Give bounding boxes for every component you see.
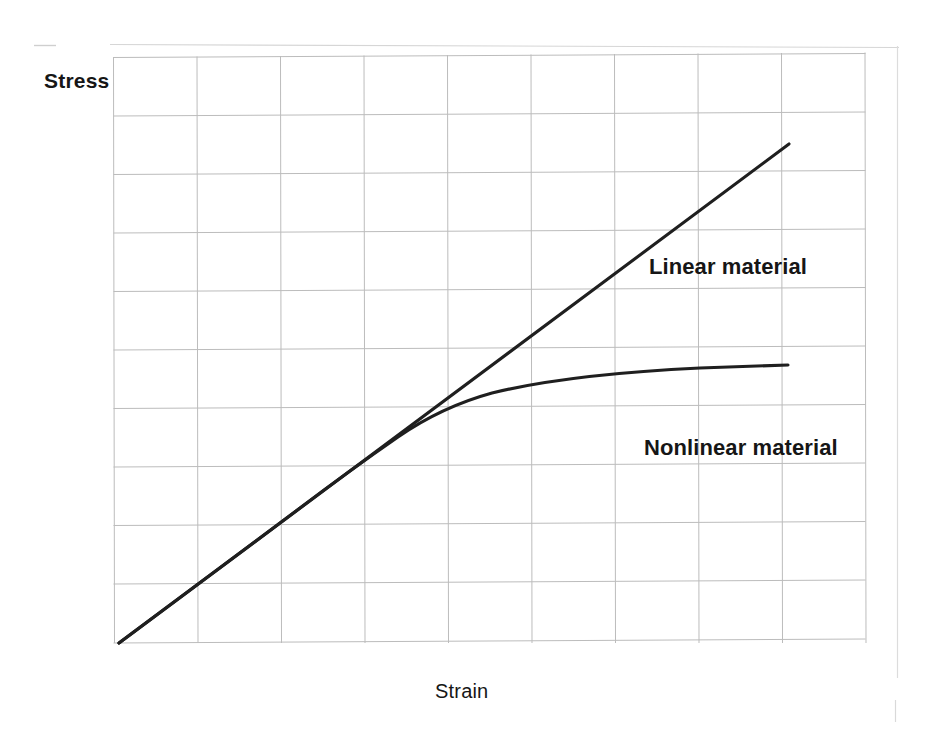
- annotation-linear-material: Linear material: [649, 256, 807, 278]
- data-curves: [119, 144, 789, 643]
- grid-line-h-6: [114, 405, 866, 409]
- grid-line-v-5: [531, 55, 532, 644]
- grid-line-h-0: [114, 54, 866, 58]
- grid-line-h-3: [114, 229, 866, 233]
- plot-canvas: [0, 0, 950, 740]
- grid-line-v-4: [448, 55, 449, 643]
- grid-line-h-4: [114, 288, 866, 292]
- x-axis-label: Strain: [435, 681, 488, 701]
- grid-line-v-6: [615, 54, 616, 643]
- grid-line-h-5: [114, 346, 866, 350]
- grid-line-v-9: [865, 53, 866, 644]
- scan-top-rule: [110, 45, 899, 48]
- grid-horizontal-lines: [114, 54, 866, 644]
- grid-line-v-8: [782, 53, 783, 643]
- y-axis-label: Stress: [44, 70, 109, 91]
- series-line-nonlinear-material: [119, 365, 788, 643]
- grid-line-v-7: [698, 54, 699, 644]
- grid-line-v-3: [364, 56, 365, 644]
- annotation-nonlinear-material: Nonlinear material: [644, 437, 838, 459]
- grid-line-h-10: [114, 639, 866, 643]
- stress-strain-figure: Stress Strain Linear material Nonlinear …: [0, 0, 950, 740]
- grid-line-h-8: [114, 522, 866, 526]
- grid-line-h-1: [114, 112, 866, 116]
- grid-line-h-9: [114, 580, 866, 584]
- grid-line-h-7: [114, 463, 866, 467]
